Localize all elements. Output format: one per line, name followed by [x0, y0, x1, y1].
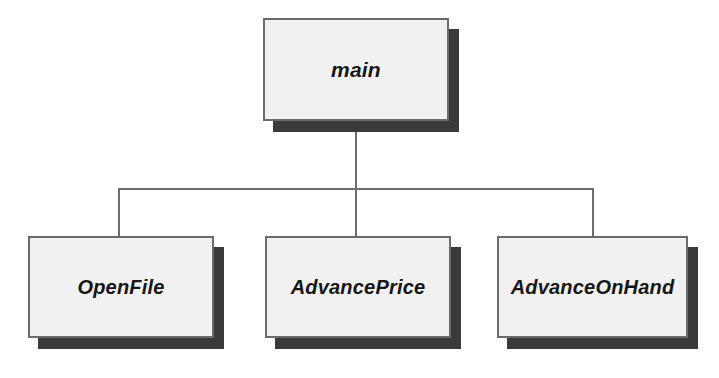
- connector-bus-to-advanceonhand: [592, 188, 594, 238]
- node-advanceprice-body: AdvancePrice: [265, 236, 451, 338]
- node-advanceprice[interactable]: AdvancePrice: [265, 236, 451, 338]
- connector-root-to-bus: [355, 122, 357, 190]
- node-openfile-label: OpenFile: [77, 276, 164, 299]
- connector-bus-to-advanceprice: [355, 188, 357, 238]
- connector-bus-to-openfile: [118, 188, 120, 238]
- node-openfile-body: OpenFile: [28, 236, 214, 338]
- node-main[interactable]: main: [263, 18, 449, 121]
- node-advanceonhand-label: AdvanceOnHand: [511, 276, 675, 299]
- node-main-label: main: [331, 58, 381, 82]
- node-openfile[interactable]: OpenFile: [28, 236, 214, 338]
- node-advanceonhand-body: AdvanceOnHand: [497, 236, 688, 338]
- node-advanceonhand[interactable]: AdvanceOnHand: [497, 236, 688, 338]
- node-main-body: main: [263, 18, 449, 121]
- structure-chart-diagram: main OpenFile AdvancePrice AdvanceOnHand: [0, 0, 719, 378]
- node-advanceprice-label: AdvancePrice: [291, 276, 426, 299]
